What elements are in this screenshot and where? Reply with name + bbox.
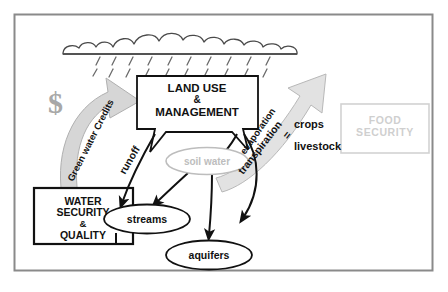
food-security-label-line1: FOOD: [369, 114, 402, 126]
crops-label: crops: [294, 118, 324, 130]
water-security-label-line3: &: [80, 218, 87, 229]
soil-water-label: soil water: [184, 156, 230, 167]
food-security-label-line2: SECURITY: [356, 126, 414, 138]
land-use-label-line1: LAND USE: [168, 82, 227, 94]
rain-dashes: [93, 57, 270, 77]
dollar-sign-icon: $: [48, 86, 63, 119]
rain-cloud: [63, 33, 297, 54]
water-security-label-line4: QUALITY: [60, 229, 106, 241]
flow-soil-water-to-aquifers: [209, 174, 212, 235]
runoff-label: runoff: [116, 143, 142, 176]
flow-soil-water-to-streams: [156, 173, 188, 203]
diagram-canvas: LAND USE & MANAGEMENT WATER SECURITY & Q…: [0, 0, 448, 292]
streams-label: streams: [127, 213, 167, 225]
water-security-label-line2: SECURITY: [56, 206, 109, 218]
aquifers-label: aquifers: [189, 249, 230, 261]
land-use-label-line2: &: [193, 94, 200, 105]
livestock-label: livestock: [294, 140, 342, 152]
land-use-label-line3: MANAGEMENT: [155, 106, 239, 118]
diagram-root: LAND USE & MANAGEMENT WATER SECURITY & Q…: [0, 0, 448, 292]
